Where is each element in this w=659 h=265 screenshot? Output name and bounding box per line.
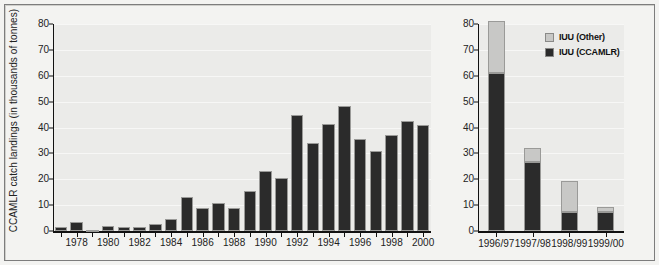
- bar-segment-ccamlr-catch-landings: [401, 121, 413, 231]
- bar-segment-ccamlr-catch-landings: [417, 125, 429, 231]
- bar-segment-iuu-other: [597, 207, 614, 212]
- bar-1997-98: [524, 24, 541, 231]
- bar-1995: [338, 24, 350, 231]
- y-axis-title: CCAMLR catch landings (in thousands of t…: [6, 0, 22, 240]
- bar-1982: [133, 24, 145, 231]
- bar-1996-97: [488, 24, 505, 231]
- x-axis-tick-mark: [92, 233, 93, 237]
- bar-segment-ccamlr-catch-landings: [307, 143, 319, 231]
- x-axis-tick-mark: [606, 233, 607, 237]
- bar-segment-ccamlr-catch-landings: [102, 226, 114, 231]
- bar-1996: [354, 24, 366, 231]
- bar-1999: [401, 24, 413, 231]
- chart-legend: IUU (Other) IUU (CCAMLR): [545, 32, 620, 62]
- x-axis-tick-label: 1992: [286, 238, 308, 248]
- x-axis-tick-label: 1980: [97, 238, 119, 248]
- y-axis-tick-label: 10: [38, 200, 49, 210]
- bar-1983: [149, 24, 161, 231]
- x-axis-tick-label: 1999/00: [588, 239, 624, 249]
- x-axis-tick-label: 1990: [255, 238, 277, 248]
- bar-segment-ccamlr-catch-landings: [275, 178, 287, 231]
- bar-1992: [291, 24, 303, 231]
- bar-segment-ccamlr-catch-landings: [55, 227, 67, 231]
- x-axis-tick-label: 1996/97: [478, 239, 514, 249]
- bar-segment-iuu-ccamlr: [561, 212, 578, 231]
- x-axis-tick-label: 1998/99: [551, 239, 587, 249]
- legend-label-iuu-other: IUU (Other): [559, 32, 605, 42]
- bar-1980: [102, 24, 114, 231]
- bar-1981: [118, 24, 130, 231]
- y-axis-tick-label: 50: [463, 97, 474, 107]
- x-axis-tick-label: 1988: [223, 238, 245, 248]
- bar-segment-ccamlr-catch-landings: [354, 139, 366, 231]
- x-axis-tick-label: 1978: [66, 238, 88, 248]
- bar-segment-ccamlr-catch-landings: [86, 230, 98, 232]
- bar-segment-ccamlr-catch-landings: [212, 203, 224, 231]
- bar-1978: [70, 24, 82, 231]
- bar-1984: [165, 24, 177, 231]
- y-axis-tick-label: 60: [463, 71, 474, 81]
- x-axis-tick-mark: [61, 233, 62, 237]
- y-axis-tick-label: 30: [463, 148, 474, 158]
- x-axis-tick-label: 1998: [381, 238, 403, 248]
- y-axis-tick-label: 60: [38, 71, 49, 81]
- bar-segment-ccamlr-catch-landings: [133, 227, 145, 231]
- bar-segment-iuu-ccamlr: [524, 162, 541, 231]
- bar-segment-iuu-ccamlr: [488, 73, 505, 231]
- chart-figure: CCAMLR catch landings (in thousands of t…: [0, 0, 659, 265]
- bar-segment-ccamlr-catch-landings: [149, 224, 161, 231]
- bar-segment-iuu-ccamlr: [597, 212, 614, 231]
- bar-1979: [86, 24, 98, 231]
- y-axis-tick-label: 20: [38, 174, 49, 184]
- x-axis-tick-mark: [187, 233, 188, 237]
- x-axis-tick-mark: [376, 233, 377, 237]
- bar-segment-ccamlr-catch-landings: [228, 208, 240, 231]
- x-axis-tick-mark: [218, 233, 219, 237]
- x-axis-tick-label: 1982: [129, 238, 151, 248]
- bar-segment-ccamlr-catch-landings: [370, 151, 382, 231]
- bar-segment-ccamlr-catch-landings: [385, 135, 397, 231]
- bar-segment-ccamlr-catch-landings: [70, 222, 82, 231]
- y-axis-tick-label: 70: [38, 45, 49, 55]
- bar-2000: [417, 24, 429, 231]
- x-axis-line: [478, 231, 624, 233]
- x-axis-tick-label: 1994: [318, 238, 340, 248]
- bar-1989: [244, 24, 256, 231]
- y-axis-tick-label: 80: [463, 19, 474, 29]
- bar-segment-ccamlr-catch-landings: [181, 197, 193, 231]
- x-axis-tick-label: 1996: [349, 238, 371, 248]
- x-axis-tick-mark: [496, 233, 497, 237]
- y-axis-tick-label: 50: [38, 97, 49, 107]
- x-axis-tick-label: 1984: [160, 238, 182, 248]
- bar-1990: [259, 24, 271, 231]
- y-axis-tick-label: 80: [38, 19, 49, 29]
- bar-segment-ccamlr-catch-landings: [322, 124, 334, 231]
- bar-segment-ccamlr-catch-landings: [259, 171, 271, 231]
- bar-segment-ccamlr-catch-landings: [291, 115, 303, 231]
- bar-1993: [307, 24, 319, 231]
- y-axis-tick-label: 10: [463, 200, 474, 210]
- y-axis-tick-label: 30: [38, 148, 49, 158]
- x-axis-tick-mark: [569, 233, 570, 237]
- bar-segment-ccamlr-catch-landings: [165, 219, 177, 231]
- x-axis-tick-mark: [250, 233, 251, 237]
- left-chart-panel: 0102030405060708019781980198219841986198…: [53, 24, 431, 231]
- bar-segment-ccamlr-catch-landings: [118, 227, 130, 231]
- bar-segment-iuu-other: [524, 148, 541, 162]
- legend-swatch-iuu-ccamlr: [545, 48, 554, 57]
- y-axis-tick-label: 40: [463, 123, 474, 133]
- y-axis-tick-label: 70: [463, 45, 474, 55]
- y-axis-line: [478, 24, 479, 231]
- bar-1985: [181, 24, 193, 231]
- bar-1977: [55, 24, 67, 231]
- x-axis-tick-mark: [533, 233, 534, 237]
- bar-segment-ccamlr-catch-landings: [196, 208, 208, 231]
- bar-1997: [370, 24, 382, 231]
- x-axis-tick-label: 1997/98: [515, 239, 551, 249]
- legend-item-iuu-ccamlr: IUU (CCAMLR): [545, 47, 620, 57]
- x-axis-tick-label: 1986: [192, 238, 214, 248]
- x-axis-tick-mark: [407, 233, 408, 237]
- x-axis-tick-mark: [155, 233, 156, 237]
- x-axis-tick-mark: [281, 233, 282, 237]
- bar-1986: [196, 24, 208, 231]
